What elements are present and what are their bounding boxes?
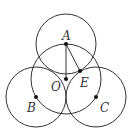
diagram-svg: A O E B C — [0, 0, 132, 138]
label-a: A — [61, 29, 71, 43]
geometry-diagram: A O E B C — [0, 0, 132, 138]
point-e — [78, 69, 82, 73]
label-o: O — [51, 80, 61, 94]
segment-ae — [66, 44, 80, 71]
label-b: B — [26, 101, 36, 115]
label-c: C — [100, 101, 109, 115]
point-c — [94, 95, 98, 99]
label-e: E — [79, 76, 89, 90]
point-o — [64, 77, 68, 81]
point-b — [34, 95, 38, 99]
